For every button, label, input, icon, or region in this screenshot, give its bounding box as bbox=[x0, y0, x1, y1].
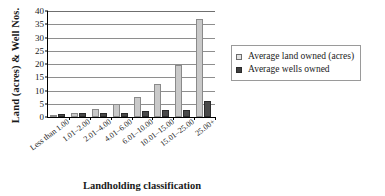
bar-wells-owned bbox=[162, 110, 169, 117]
legend-swatch-land-icon bbox=[236, 54, 242, 60]
bar-group bbox=[90, 11, 111, 117]
bar-land-owned bbox=[134, 97, 141, 117]
y-axis-tick-label: 15 bbox=[35, 73, 44, 82]
bar-wells-owned bbox=[100, 113, 107, 117]
bar-group bbox=[48, 11, 69, 117]
y-axis-tick-label: 0 bbox=[40, 113, 45, 122]
legend-item: Average wells owned bbox=[236, 63, 354, 76]
bar-land-owned bbox=[154, 84, 161, 117]
bar-group bbox=[194, 11, 215, 117]
legend-swatch-wells-icon bbox=[236, 67, 242, 73]
y-axis-tick-label: 30 bbox=[35, 33, 44, 42]
y-axis-tick-label: 5 bbox=[40, 99, 45, 108]
bar-land-owned bbox=[175, 65, 182, 117]
chart-figure: Land (acres) & Well Nos. 051015202530354… bbox=[0, 0, 385, 196]
bar-wells-owned bbox=[142, 111, 149, 117]
bar-group bbox=[69, 11, 90, 117]
x-axis-tick-label: 25.00+ bbox=[194, 118, 217, 139]
bar-land-owned bbox=[71, 113, 78, 117]
legend-label: Average land owned (acres) bbox=[248, 52, 354, 62]
x-axis-title: Landholding classification bbox=[47, 180, 237, 191]
bar-wells-owned bbox=[121, 113, 128, 117]
bar-wells-owned bbox=[183, 110, 190, 117]
legend-item: Average land owned (acres) bbox=[236, 50, 354, 63]
bar-group bbox=[111, 11, 132, 117]
legend-label: Average wells owned bbox=[248, 65, 330, 75]
y-axis-tick-label: 20 bbox=[35, 60, 44, 69]
y-axis-tick-label: 10 bbox=[35, 86, 44, 95]
bar-group bbox=[152, 11, 173, 117]
chart-legend: Average land owned (acres) Average wells… bbox=[231, 45, 361, 81]
plot-area: 0510152025303540 bbox=[47, 11, 215, 118]
bar-land-owned bbox=[92, 109, 99, 117]
y-axis-tick-label: 25 bbox=[35, 46, 44, 55]
x-axis-tick-labels: Less than 1.001.01–2.002.01–4.004.01–6.0… bbox=[47, 118, 247, 170]
bar-series-container bbox=[48, 11, 215, 117]
y-axis-tick-label: 35 bbox=[35, 20, 44, 29]
y-axis-tick-label: 40 bbox=[35, 7, 44, 16]
bar-group bbox=[132, 11, 153, 117]
bar-land-owned bbox=[113, 104, 120, 117]
bar-land-owned bbox=[50, 115, 57, 117]
y-axis-title: Land (acres) & Well Nos. bbox=[10, 4, 21, 128]
bar-wells-owned bbox=[79, 113, 86, 117]
bar-wells-owned bbox=[58, 114, 65, 117]
bar-group bbox=[173, 11, 194, 117]
bar-wells-owned bbox=[204, 101, 211, 117]
bar-land-owned bbox=[196, 19, 203, 117]
